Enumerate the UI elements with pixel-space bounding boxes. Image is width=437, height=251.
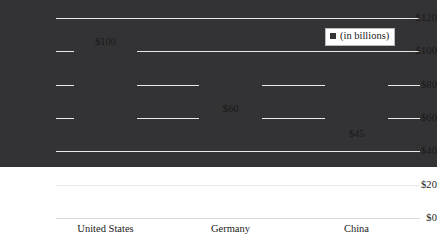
legend[interactable]: (in billions): [325, 28, 395, 46]
legend-label: (in billions): [340, 31, 389, 42]
y-tick-label-0: $0: [385, 213, 437, 224]
gridline-20: [56, 185, 420, 186]
gridline-120: [56, 18, 420, 19]
bar-germany[interactable]: [199, 59, 262, 134]
y-tick-label-100: $100: [385, 46, 437, 57]
y-tick-label-80: $80: [385, 80, 437, 91]
y-tick-label-60: $60: [385, 113, 437, 124]
bar-chart: $120 $100 $80 $60 $40 $20 $0 $100 $60 $4…: [0, 0, 437, 167]
data-label-germany: $60: [199, 104, 262, 115]
x-tick-label-germany: Germany: [183, 224, 278, 235]
y-tick-label-40: $40: [385, 146, 437, 157]
legend-swatch-icon: [330, 33, 336, 39]
bar-united-states[interactable]: [74, 34, 137, 134]
gridline-0-baseline: [56, 218, 420, 219]
gridline-40: [56, 151, 420, 152]
y-tick-label-120: $120: [385, 13, 437, 24]
x-tick-label-china: China: [309, 224, 404, 235]
data-label-united-states: $100: [74, 37, 137, 48]
y-tick-label-20: $20: [385, 180, 437, 191]
data-label-china: $45: [325, 129, 388, 140]
bar-china[interactable]: [325, 59, 388, 134]
x-tick-label-united-states: United States: [58, 224, 153, 235]
